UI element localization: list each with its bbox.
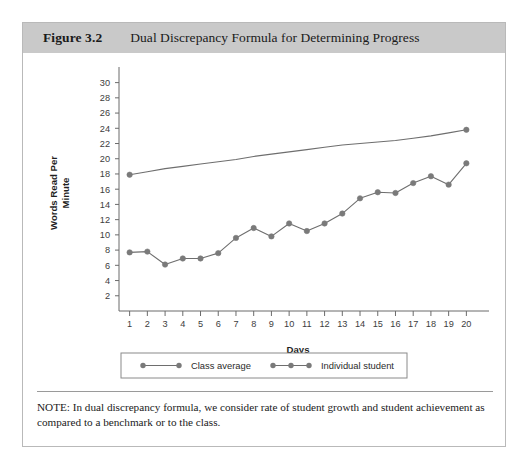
y-tick-label: 12 [100,215,110,225]
x-tick-label: 5 [198,319,203,329]
y-tick-label: 18 [100,169,110,179]
data-point-marker [428,174,433,179]
data-point-marker [162,262,167,267]
data-point-marker [340,211,345,216]
y-tick-label: 16 [100,185,110,195]
data-point-marker [127,250,132,255]
x-tick-label: 16 [390,319,400,329]
figure-number: Figure 3.2 [43,30,102,46]
y-tick-label: 30 [100,78,110,88]
series-line [130,130,467,175]
data-point-marker [393,190,398,195]
x-tick-label: 4 [180,319,185,329]
figure-header: Figure 3.2 Dual Discrepancy Formula for … [23,23,505,53]
y-axis-title-line: Words Read Per [48,156,59,230]
data-point-marker [198,256,203,261]
data-point-marker [216,250,221,255]
y-tick-label: 10 [100,230,110,240]
chart-legend: Class averageIndividual student [121,353,407,378]
data-point-marker [464,127,469,132]
x-tick-label: 14 [355,319,365,329]
y-tick-label: 6 [105,261,110,271]
data-point-marker [269,234,274,239]
x-tick-label: 3 [163,319,168,329]
x-tick-label: 18 [426,319,436,329]
x-tick-label: 7 [233,319,238,329]
y-tick-label: 22 [100,139,110,149]
data-point-marker [411,180,416,185]
y-tick-label: 20 [100,154,110,164]
y-tick-label: 26 [100,108,110,118]
x-tick-label: 1 [127,319,132,329]
x-tick-label: 10 [284,319,294,329]
series-line [130,163,467,264]
chart-axes [115,67,489,316]
legend-label: Class average [191,360,251,371]
data-point-marker [180,256,185,261]
note-text: NOTE: In dual discrepancy formula, we co… [37,400,489,430]
data-point-marker [304,228,309,233]
series-individual-student [127,161,469,268]
data-point-marker [286,221,291,226]
y-tick-label: 14 [100,200,110,210]
x-axis-tick-labels: 1234567891011121314151617181920 [127,319,471,329]
note-divider [37,391,493,392]
data-point-marker [322,221,327,226]
data-point-marker [251,225,256,230]
data-point-marker [233,235,238,240]
y-tick-label: 28 [100,93,110,103]
data-point-marker [357,196,362,201]
figure-card: Figure 3.2 Dual Discrepancy Formula for … [22,22,506,447]
series-class-average [127,127,469,177]
chart-plot-region: 24681012141618202224262830 1234567891011… [23,53,505,393]
y-axis-title: Words Read PerMinute [48,156,71,230]
x-tick-label: 2 [145,319,150,329]
x-tick-label: 11 [302,319,312,329]
chart-series-group [127,127,469,267]
data-point-marker [446,182,451,187]
x-tick-label: 20 [461,319,471,329]
x-tick-label: 13 [337,319,347,329]
line-chart: 24681012141618202224262830 1234567891011… [23,53,505,393]
x-tick-label: 19 [444,319,454,329]
y-axis-tick-labels: 24681012141618202224262830 [100,78,110,301]
data-point-marker [145,249,150,254]
figure-title: Dual Discrepancy Formula for Determining… [130,30,419,46]
x-tick-label: 15 [373,319,383,329]
x-tick-label: 6 [216,319,221,329]
data-point-marker [375,190,380,195]
x-tick-label: 9 [269,319,274,329]
y-tick-label: 2 [105,291,110,301]
y-tick-label: 8 [105,245,110,255]
legend-label: Individual student [321,360,394,371]
x-tick-label: 8 [251,319,256,329]
y-tick-label: 24 [100,124,110,134]
y-tick-label: 4 [105,276,110,286]
data-point-marker [127,172,132,177]
x-tick-label: 17 [408,319,418,329]
data-point-marker [464,161,469,166]
figure-note: NOTE: In dual discrepancy formula, we co… [23,391,505,446]
y-axis-title-line: Minute [60,178,71,209]
x-tick-label: 12 [319,319,329,329]
